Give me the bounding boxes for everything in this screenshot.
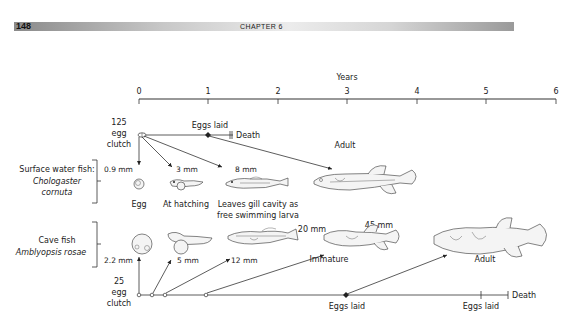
surface-eggs-laid: Eggs laid bbox=[192, 121, 228, 130]
cave-larva-illustration bbox=[228, 228, 298, 244]
axis-tick-1: 1 bbox=[205, 87, 210, 96]
cave-clutch-word2: clutch bbox=[107, 299, 131, 308]
cave-stage-hatch-size: 5 mm bbox=[177, 256, 199, 265]
axis-tick-4: 4 bbox=[414, 87, 419, 96]
surface-stage-larva-name-2: free swimming larva bbox=[217, 211, 299, 220]
axis-tick-6: 6 bbox=[553, 87, 558, 96]
axis-tick-2: 2 bbox=[275, 87, 280, 96]
cave-adult-illustration bbox=[434, 218, 547, 257]
surface-stage-hatch-name: At hatching bbox=[163, 200, 209, 209]
cave-fish-stages: 45 mm 20 mm bbox=[104, 218, 547, 265]
surface-hatchling-illustration bbox=[170, 180, 203, 190]
surface-egg-illustration bbox=[134, 179, 144, 189]
cave-hatchling-illustration bbox=[168, 232, 212, 254]
cave-clutch-count: 25 bbox=[114, 277, 124, 286]
surface-fish-timeline: 125 egg clutch Eggs laid Death bbox=[107, 118, 332, 169]
cave-eggs-laid-1: Eggs laid bbox=[329, 302, 365, 311]
cave-fish-label: Cave fish Amblyopsis rosae bbox=[15, 222, 101, 267]
surface-stage-larva-name-1: Leaves gill cavity as bbox=[218, 200, 299, 209]
cave-stage-adult-name: Adult bbox=[475, 255, 496, 264]
cave-stage-egg-size: 2.2 mm bbox=[104, 256, 133, 265]
cave-egg-illustration bbox=[132, 234, 152, 254]
surface-stage-hatch-size: 3 mm bbox=[176, 165, 198, 174]
cave-fish-heading: Cave fish bbox=[39, 236, 76, 245]
surface-species-genus: Chologaster bbox=[33, 177, 82, 186]
surface-stage-adult-name: Adult bbox=[335, 141, 356, 150]
surface-stage-larva-size: 8 mm bbox=[235, 165, 257, 174]
cave-clutch-word: egg bbox=[111, 288, 126, 297]
surface-fish-stages: 0.9 mm 3 mm 8 mm Adult bbox=[104, 141, 416, 220]
surface-species-epithet: cornuta bbox=[42, 188, 73, 197]
surface-clutch-count: 125 bbox=[111, 118, 126, 127]
surface-clutch-word2: clutch bbox=[107, 140, 131, 149]
cave-stage-immature-name: Immature bbox=[309, 255, 348, 264]
surface-adult-illustration bbox=[314, 166, 416, 194]
cave-stage-immature-size: 20 mm bbox=[298, 225, 327, 234]
cave-death: Death bbox=[512, 291, 536, 300]
surface-death: Death bbox=[236, 131, 260, 140]
surface-fish-label: Surface water fish: Chologaster cornuta bbox=[19, 160, 101, 203]
surface-larva-illustration bbox=[226, 177, 288, 188]
life-history-diagram: Years 0 1 2 3 4 5 6 125 egg clutch Eggs … bbox=[0, 0, 582, 329]
surface-clutch-word: egg bbox=[111, 129, 126, 138]
axis-tick-5: 5 bbox=[483, 87, 488, 96]
surface-stage-egg-name: Egg bbox=[131, 200, 146, 209]
axis-tick-3: 3 bbox=[344, 87, 349, 96]
surface-stage-egg-size: 0.9 mm bbox=[104, 165, 133, 174]
surface-fish-heading: Surface water fish: bbox=[19, 165, 94, 174]
cave-eggs-laid-2: Eggs laid bbox=[463, 302, 499, 311]
axis-title: Years bbox=[335, 73, 357, 82]
cave-species: Amblyopsis rosae bbox=[15, 248, 87, 257]
years-axis: Years 0 1 2 3 4 5 6 bbox=[136, 73, 558, 104]
axis-tick-0: 0 bbox=[136, 87, 141, 96]
cave-stage-larva-size: 12 mm bbox=[231, 256, 258, 265]
